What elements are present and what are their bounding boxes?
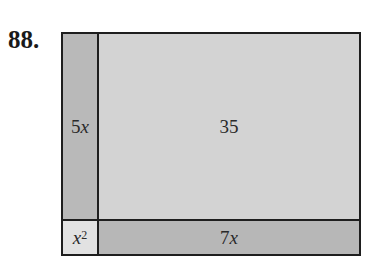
region-35: 35 <box>99 34 359 219</box>
label-35: 35 <box>220 116 239 138</box>
label-5x-coef: 5 <box>71 116 81 138</box>
label-7x-var: x <box>230 227 238 249</box>
region-7x: 7x <box>99 219 359 254</box>
region-x-squared: x2 <box>63 219 99 254</box>
region-5x: 5x <box>63 34 99 219</box>
label-x2-var: x <box>73 227 81 249</box>
area-model-rectangle: 5x 35 x2 7x <box>61 32 361 256</box>
label-7x-coef: 7 <box>220 227 230 249</box>
label-x2-exp: 2 <box>81 228 87 243</box>
label-5x-var: x <box>81 116 89 138</box>
problem-number: 88. <box>8 26 39 54</box>
